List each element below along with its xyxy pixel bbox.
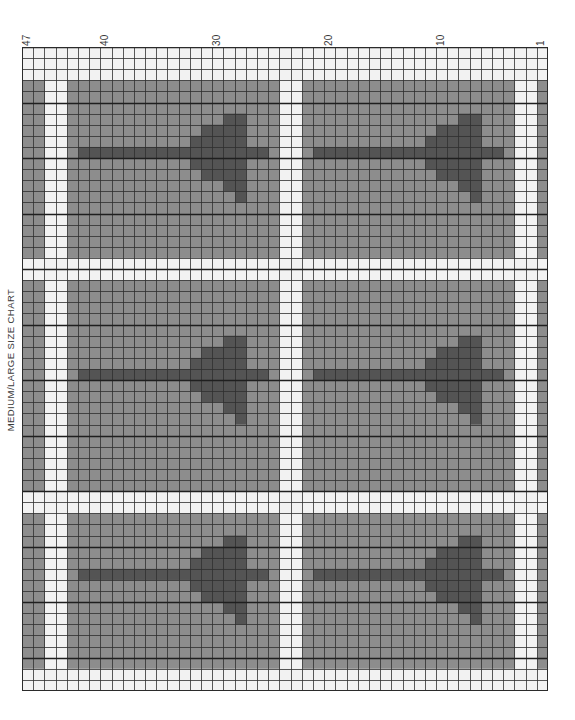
column-number-40: 40 [99,34,110,46]
chart-page: MEDIUM/LARGE SIZE CHART 11020304047 [0,0,575,720]
column-number-47: 47 [21,34,32,46]
column-number-1: 1 [535,40,546,46]
stitch-chart-grid[interactable] [22,47,548,691]
stitch-chart-canvas[interactable] [22,47,548,691]
column-number-30: 30 [211,34,222,46]
column-number-10: 10 [435,34,446,46]
chart-title-label: MEDIUM/LARGE SIZE CHART [5,289,16,432]
chart-title: MEDIUM/LARGE SIZE CHART [0,0,20,720]
column-number-ruler: 11020304047 [22,6,548,46]
column-number-20: 20 [323,34,334,46]
